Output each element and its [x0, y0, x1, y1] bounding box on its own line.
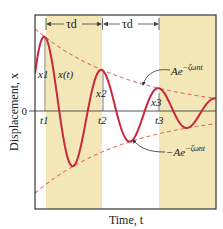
period-1-label: τd [66, 17, 77, 31]
period-2-label: τd [122, 17, 133, 31]
zero-label: 0 [22, 105, 28, 117]
time-label-t3: t3 [155, 114, 164, 126]
peak-label-x1: x1 [37, 68, 48, 80]
time-label-t1: t1 [40, 114, 49, 126]
time-label-t2: t2 [98, 114, 107, 126]
curve-label: x(t) [57, 68, 74, 81]
damped-vibration-diagram: τd τd x1 x(t) x2 x3 t1 t2 t3 0 Ae−ζωnt −… [0, 0, 223, 229]
peak-label-x3: x3 [150, 96, 162, 108]
peak-label-x2: x2 [95, 87, 107, 99]
shaded-band-2 [159, 15, 216, 209]
x-axis-label: Time, t [109, 213, 144, 227]
y-axis-label: Displacement, x [7, 73, 21, 151]
